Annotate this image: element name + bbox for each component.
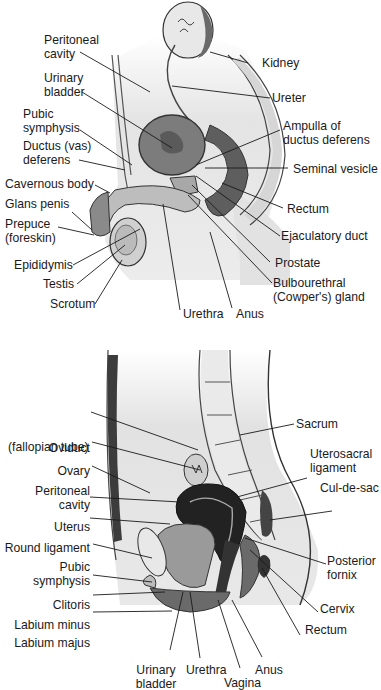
label-sacrum: Sacrum xyxy=(296,417,338,431)
label-line: (fallopian tube) xyxy=(8,440,89,454)
label-round-ligament: Round ligament xyxy=(2,541,90,555)
label-uterosacral-ligament: Uterosacral ligament xyxy=(310,447,372,475)
label-ejaculatory-duct: Ejaculatory duct xyxy=(281,229,368,243)
label-bulbourethral-gland: Bulbourethral (Cowper's) gland xyxy=(273,276,365,304)
label-line: Bulbourethral xyxy=(273,276,365,290)
label-clitoris: Clitoris xyxy=(10,598,90,612)
label-line: Urinary xyxy=(44,71,85,85)
label-line: Pubic xyxy=(23,107,80,121)
label-line: ductus deferens xyxy=(283,133,370,147)
label-cul-de-sac: Cul-de-sac xyxy=(320,481,379,495)
label-urethra: Urethra xyxy=(183,307,224,321)
label-labium-minus: Labium minus xyxy=(2,618,90,632)
label-epididymis: Epididymis xyxy=(14,258,73,272)
label-urinary-bladder: Urinary bladder xyxy=(128,663,184,690)
label-line: symphysis xyxy=(10,574,90,588)
label-ampulla-ductus-deferens: Ampulla of ductus deferens xyxy=(283,119,370,147)
label-line: Pubic xyxy=(10,560,90,574)
label-line: Peritoneal xyxy=(44,33,99,47)
label-cavernous-body: Cavernous body xyxy=(5,177,94,191)
label-scrotum: Scrotum xyxy=(50,297,95,311)
label-oviduct-sub: . (fallopian tube) xyxy=(8,426,89,454)
label-ductus-deferens: Ductus (vas) deferens xyxy=(23,139,91,167)
label-line: Prepuce xyxy=(5,217,56,231)
label-kidney: Kidney xyxy=(262,56,299,70)
label-line: Ampulla of xyxy=(283,119,370,133)
label-peritoneal-cavity: Peritoneal cavity xyxy=(10,484,90,512)
label-line: bladder xyxy=(128,677,184,690)
label-cervix: Cervix xyxy=(320,602,355,616)
label-labium-majus: Labium majus xyxy=(2,636,90,650)
label-line: Posterior xyxy=(327,554,376,568)
label-line: fornix xyxy=(327,568,376,582)
label-line: ligament xyxy=(310,461,372,475)
label-prostate: Prostate xyxy=(275,256,320,270)
label-line: cavity xyxy=(10,498,90,512)
label-pubic-symphysis: Pubic symphysis xyxy=(10,560,90,588)
label-line: (foreskin) xyxy=(5,231,56,245)
label-posterior-fornix: Posterior fornix xyxy=(327,554,376,582)
label-line: Ductus (vas) xyxy=(23,139,91,153)
label-line: cavity xyxy=(44,47,99,61)
label-glans-penis: Glans penis xyxy=(5,197,69,211)
male-reproductive-diagram: Peritoneal cavity Urinary bladder Pubic … xyxy=(0,0,381,330)
label-line: deferens xyxy=(23,153,91,167)
label-line: Urinary xyxy=(128,663,184,677)
label-testis: Testis xyxy=(43,277,74,291)
label-line: bladder xyxy=(44,85,85,99)
label-rectum: Rectum xyxy=(287,202,329,216)
label-pubic-symphysis: Pubic symphysis xyxy=(23,107,80,135)
label-vagina: Vagina xyxy=(224,676,261,690)
label-uterus: Uterus xyxy=(10,520,90,534)
label-prepuce: Prepuce (foreskin) xyxy=(5,217,56,245)
label-urethra: Urethra xyxy=(186,663,227,677)
label-ovary: Ovary xyxy=(20,464,90,478)
label-rectum: Rectum xyxy=(305,623,347,637)
label-line: symphysis xyxy=(23,121,80,135)
label-line: Uterosacral xyxy=(310,447,372,461)
label-seminal-vesicle: Seminal vesicle xyxy=(293,162,378,176)
label-anus: Anus xyxy=(236,307,264,321)
label-line: Peritoneal xyxy=(10,484,90,498)
female-reproductive-diagram: Oviduct . (fallopian tube) Ovary Periton… xyxy=(0,330,381,690)
label-ureter: Ureter xyxy=(272,91,306,105)
label-line: (Cowper's) gland xyxy=(273,290,365,304)
label-anus: Anus xyxy=(255,663,283,677)
label-peritoneal-cavity: Peritoneal cavity xyxy=(44,33,99,61)
label-urinary-bladder: Urinary bladder xyxy=(44,71,85,99)
